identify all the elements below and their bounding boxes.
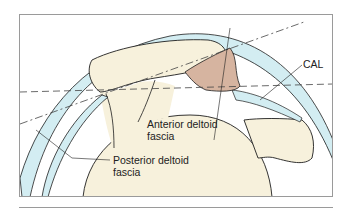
anterior-deltoid-fascia-label-line2: fascia [147,131,174,142]
anterior-deltoid-fascia-label-line1: Anterior deltoid [147,119,218,130]
caption-divider [19,207,333,208]
posterior-deltoid-fascia-label-line1: Posterior deltoid [113,155,189,166]
cal-label: CAL [303,59,323,70]
posterior-deltoid-fascia-label-line2: fascia [113,167,140,178]
diagram-canvas [0,0,348,211]
cal-ligament [232,90,302,122]
